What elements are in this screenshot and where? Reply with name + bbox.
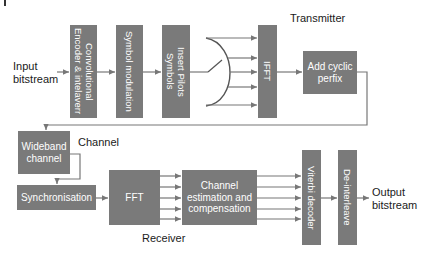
channel-estimation-text: Channel estimation and compensation (187, 180, 252, 215)
insert-pilots-text: Insert Pilots Symbols (165, 47, 187, 97)
channel-estimation-block: Channel estimation and compensation (182, 170, 257, 225)
add-cyclic-prefix-text: Add cyclic perfix (307, 61, 352, 84)
input-bitstream-label: Input bitstream (13, 60, 58, 85)
symbol-modulation-block: Symbol modulation (116, 25, 143, 118)
de-interleave-block: De-interleave (338, 150, 357, 245)
symbol-modulation-text: Symbol modulation (124, 31, 136, 112)
transmitter-label: Transmitter (290, 12, 345, 25)
ifft-block: IFFT (258, 25, 277, 118)
synchronisation-block: Synchronisation (17, 185, 96, 210)
convolutional-encoder-text: Convolutional Encoder & intelaverr (73, 28, 95, 114)
fft-block: FFT (109, 170, 160, 225)
receiver-label: Receiver (142, 232, 185, 245)
fft-text: FFT (125, 192, 143, 204)
add-cyclic-prefix-block: Add cyclic perfix (303, 51, 357, 94)
viterbi-decoder-block: Viterbi decoder (302, 150, 321, 245)
channel-label: Channel (78, 136, 119, 149)
ifft-text: IFFT (262, 61, 274, 81)
insert-pilots-block: Insert Pilots Symbols (162, 25, 190, 118)
de-interleave-text: De-interleave (342, 169, 354, 226)
synchronisation-text: Synchronisation (21, 192, 92, 204)
wideband-channel-text: Wideband channel (21, 141, 66, 164)
wideband-channel-block: Wideband channel (18, 131, 70, 174)
convolutional-encoder-block: Convolutional Encoder & intelaverr (70, 25, 97, 118)
viterbi-decoder-text: Viterbi decoder (306, 166, 318, 230)
output-bitstream-label: Output bitstream (372, 186, 417, 211)
